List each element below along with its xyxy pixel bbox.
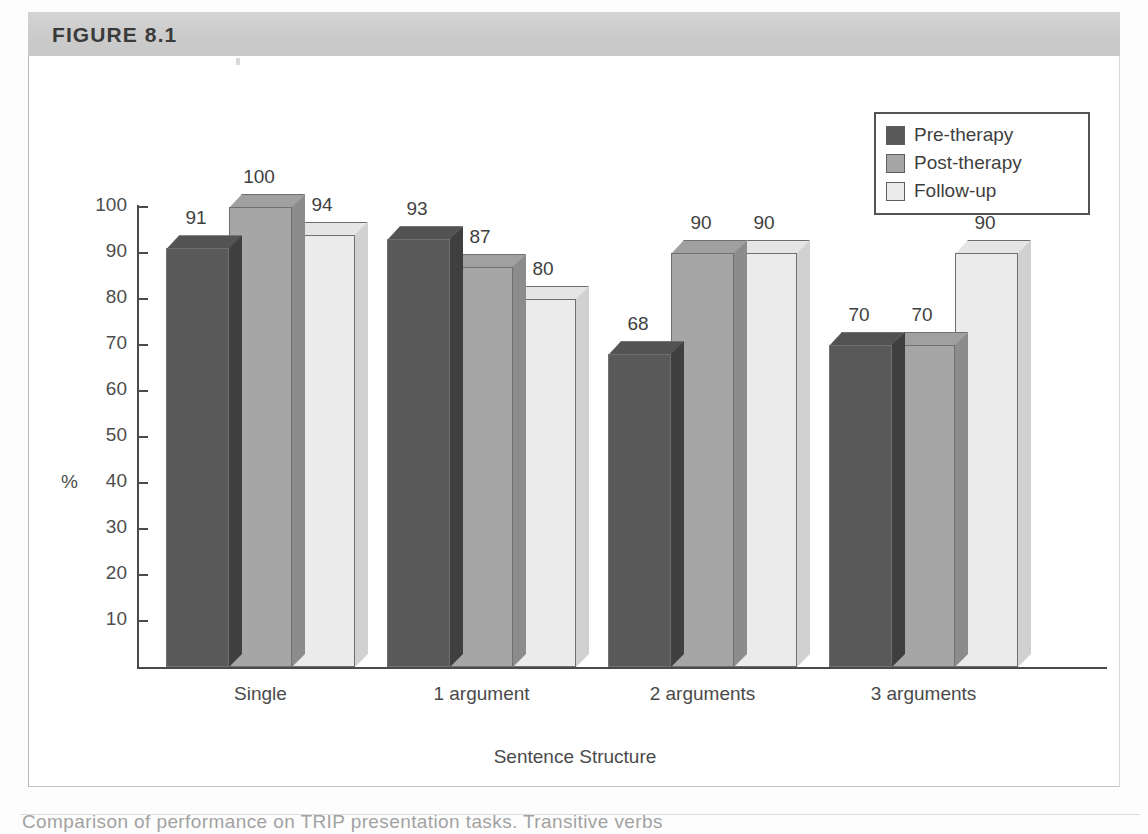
value-label: 90 bbox=[947, 212, 1023, 234]
value-label: 94 bbox=[284, 194, 360, 216]
y-tick-label-90: 90 bbox=[81, 240, 127, 262]
y-tick-label-40: 40 bbox=[81, 470, 127, 492]
bar-pre-therapy-single bbox=[166, 235, 242, 667]
bar-side-face bbox=[1018, 240, 1031, 667]
bar-side-face bbox=[955, 332, 968, 667]
legend-label: Post-therapy bbox=[914, 152, 1022, 174]
x-category-label-1-argument: 1 argument bbox=[367, 683, 596, 705]
y-tick-80 bbox=[139, 298, 148, 300]
figure-label: FIGURE 8.1 bbox=[52, 23, 177, 47]
bar-side-face bbox=[797, 240, 810, 667]
bar-side-face bbox=[576, 286, 589, 667]
y-axis-title: % bbox=[61, 471, 78, 493]
legend-label: Follow-up bbox=[914, 180, 996, 202]
y-tick-label-50: 50 bbox=[81, 424, 127, 446]
value-label: 68 bbox=[600, 313, 676, 335]
y-tick-label-10: 10 bbox=[81, 608, 127, 630]
value-label: 80 bbox=[505, 258, 581, 280]
y-tick-30 bbox=[139, 528, 148, 530]
y-tick-label-80: 80 bbox=[81, 286, 127, 308]
x-category-label-single: Single bbox=[146, 683, 375, 705]
square-swatch-light bbox=[886, 182, 905, 201]
bar-pre-therapy-2-arguments bbox=[608, 341, 684, 667]
y-tick-10 bbox=[139, 620, 148, 622]
scan-speck bbox=[236, 58, 240, 65]
bar-side-face bbox=[355, 222, 368, 667]
plot-area: % 102030405060708090100 9410091808793909… bbox=[29, 56, 1121, 787]
y-tick-label-30: 30 bbox=[81, 516, 127, 538]
x-axis-line bbox=[137, 667, 1107, 669]
figure-header-band: FIGURE 8.1 bbox=[28, 12, 1120, 56]
bar-side-face bbox=[892, 332, 905, 667]
figure-caption-clipped: Comparison of performance on TRIP presen… bbox=[0, 812, 1148, 834]
x-category-label-2-arguments: 2 arguments bbox=[588, 683, 817, 705]
legend-item-post-therapy[interactable]: Post-therapy bbox=[886, 149, 1078, 177]
bar-pre-therapy-1-argument bbox=[387, 226, 463, 667]
bar-side-face bbox=[450, 226, 463, 667]
value-label: 87 bbox=[442, 226, 518, 248]
figure-header-fill bbox=[28, 12, 1120, 56]
y-tick-50 bbox=[139, 436, 148, 438]
figure-page: FIGURE 8.1 % 102030405060708090100 94100… bbox=[0, 0, 1148, 834]
figure-caption-text: Comparison of performance on TRIP presen… bbox=[22, 812, 663, 833]
figure-container: FIGURE 8.1 % 102030405060708090100 94100… bbox=[28, 12, 1120, 787]
y-tick-90 bbox=[139, 252, 148, 254]
value-label: 90 bbox=[663, 212, 739, 234]
bar-side-face bbox=[229, 235, 242, 667]
bar-front-face bbox=[608, 354, 671, 667]
value-label: 100 bbox=[221, 166, 297, 188]
y-tick-label-20: 20 bbox=[81, 562, 127, 584]
y-tick-20 bbox=[139, 574, 148, 576]
bar-side-face bbox=[513, 254, 526, 667]
y-tick-100 bbox=[139, 206, 148, 208]
value-label: 91 bbox=[158, 207, 234, 229]
bar-side-face bbox=[734, 240, 747, 667]
bar-front-face bbox=[387, 239, 450, 667]
y-tick-40 bbox=[139, 482, 148, 484]
y-tick-label-70: 70 bbox=[81, 332, 127, 354]
bar-side-face bbox=[671, 341, 684, 667]
legend-label: Pre-therapy bbox=[914, 124, 1013, 146]
chart-legend: Pre-therapyPost-therapyFollow-up bbox=[874, 112, 1090, 215]
legend-item-follow-up[interactable]: Follow-up bbox=[886, 177, 1078, 205]
bar-side-face bbox=[292, 194, 305, 667]
bar-front-face bbox=[166, 248, 229, 667]
y-tick-label-60: 60 bbox=[81, 378, 127, 400]
value-label: 70 bbox=[821, 304, 897, 326]
bar-pre-therapy-3-arguments bbox=[829, 332, 905, 667]
bar-front-face bbox=[829, 345, 892, 667]
value-label: 93 bbox=[379, 198, 455, 220]
x-axis-title: Sentence Structure bbox=[29, 746, 1121, 768]
square-swatch-medium bbox=[886, 154, 905, 173]
y-tick-70 bbox=[139, 344, 148, 346]
y-tick-60 bbox=[139, 390, 148, 392]
chart-panel: % 102030405060708090100 9410091808793909… bbox=[28, 56, 1120, 787]
legend-item-pre-therapy[interactable]: Pre-therapy bbox=[886, 121, 1078, 149]
square-swatch-dark bbox=[886, 126, 905, 145]
y-tick-label-100: 100 bbox=[81, 194, 127, 216]
x-category-label-3-arguments: 3 arguments bbox=[809, 683, 1038, 705]
